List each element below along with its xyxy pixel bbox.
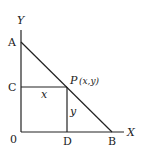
segment-y-label: y (69, 105, 77, 118)
coordinate-diagram: Y X A C 0 D B P (x,y) x y (0, 0, 142, 150)
point-a-label: A (7, 36, 17, 49)
segment-x-label: x (41, 88, 48, 101)
point-b-label: B (108, 135, 116, 148)
point-c-label: C (8, 81, 16, 94)
origin-label: 0 (10, 133, 17, 146)
point-p-label: P (69, 74, 78, 87)
point-d-label: D (63, 135, 72, 148)
point-p-coords: (x,y) (79, 76, 100, 86)
x-axis-label: X (126, 126, 136, 139)
y-axis-label: Y (17, 14, 26, 27)
